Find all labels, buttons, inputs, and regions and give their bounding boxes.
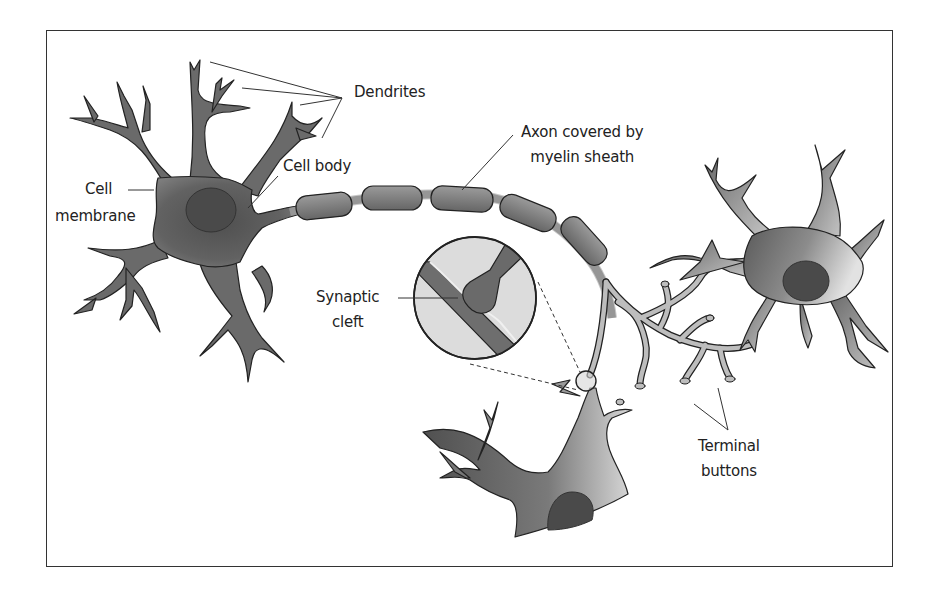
label-synaptic-cleft: Synaptic cleft	[316, 288, 379, 331]
label-axon-myelin-sheath: Axon covered by myelin sheath	[521, 123, 643, 166]
nucleus-right	[783, 261, 829, 301]
neuron-illustration	[0, 0, 929, 597]
terminal-buttons	[616, 259, 748, 405]
label-terminal-buttons: Terminal buttons	[698, 437, 760, 480]
axon-terminals	[590, 259, 750, 405]
label-cell-body: Cell body	[283, 157, 351, 175]
synapse-zoom-marker	[576, 371, 596, 391]
label-dendrites: Dendrites	[354, 83, 425, 101]
synaptic-cleft-inset	[405, 220, 596, 391]
nucleus-left	[186, 188, 236, 232]
label-cell-membrane: Cell membrane	[55, 180, 135, 225]
neuron-bottom	[423, 380, 632, 537]
